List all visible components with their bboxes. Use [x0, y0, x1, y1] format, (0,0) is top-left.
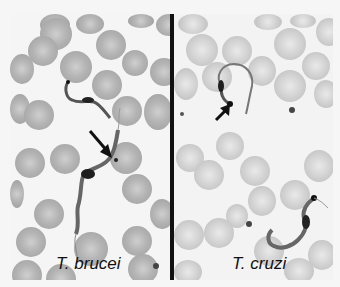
caption-t-cruzi: T. cruzi — [232, 254, 286, 274]
micrograph-figure: T. brucei — [10, 14, 333, 280]
panel-t-brucei: T. brucei — [10, 14, 170, 280]
parasite-overlay — [174, 14, 333, 280]
parasite-overlay — [10, 14, 170, 280]
debris-speck — [289, 107, 295, 113]
debris-speck — [180, 112, 184, 116]
caption-t-brucei: T. brucei — [56, 254, 121, 274]
arrow-icon — [216, 104, 230, 120]
debris-speck — [153, 263, 159, 269]
debris-speck — [246, 221, 252, 227]
trypanosome-brucei-lower — [75, 108, 120, 264]
trypanosome-brucei-upper — [66, 80, 110, 118]
panel-t-cruzi: T. cruzi — [174, 14, 333, 280]
arrow-icon — [90, 131, 112, 158]
trypanosome-cruzi-lower — [268, 195, 328, 248]
trypanosome-cruzi-upper — [218, 64, 252, 114]
